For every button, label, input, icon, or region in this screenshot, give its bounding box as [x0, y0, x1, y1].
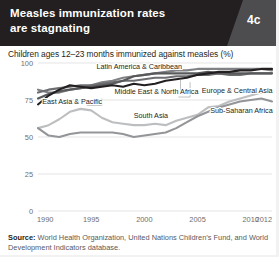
y-tick-label-100: 100	[21, 59, 33, 68]
x-tick-label-1995: 1995	[83, 215, 99, 224]
series-label-east-asia-pacific: East Asia & Pacific	[42, 97, 102, 106]
series-label-middle-east-north-africa: Middle East & North Africa	[115, 87, 199, 96]
x-tick-label-1990: 1990	[37, 215, 53, 224]
figure-title-line2: are stagnating	[10, 21, 230, 36]
x-axis-labels-group: 199019952000200520102012	[37, 215, 272, 224]
y-axis-labels-group: 0255075100	[21, 59, 33, 216]
line-chart-svg: 0255075100 199019952000200520102012 Lati…	[0, 59, 279, 229]
figure-header: Measles immunization rates are stagnatin…	[0, 0, 279, 46]
series-label-south-asia: South Asia	[134, 111, 168, 120]
series-label-latin-america-caribbean: Latin America & Caribbean	[97, 62, 183, 71]
y-tick-label-0: 0	[29, 207, 33, 216]
right-edge-rule	[276, 0, 279, 257]
series-label-sub-saharan-africa: Sub-Saharan Africa	[210, 106, 272, 115]
figure-number-badge: 4c	[227, 0, 279, 46]
x-tick-label-2012: 2012	[256, 215, 272, 224]
figure-title: Measles immunization rates are stagnatin…	[10, 6, 230, 36]
y-tick-label-50: 50	[25, 133, 33, 142]
chart-plot-area: 0255075100 199019952000200520102012 Lati…	[0, 59, 279, 229]
chart-subtitle: Children ages 12–23 months immunized aga…	[8, 49, 233, 59]
x-tick-label-2000: 2000	[136, 215, 152, 224]
figure-4c: Measles immunization rates are stagnatin…	[0, 0, 279, 257]
source-text: World Health Organization, United Nation…	[8, 233, 268, 252]
y-tick-label-75: 75	[25, 96, 33, 105]
series-label-europe-central-asia: Europe & Central Asia	[202, 86, 273, 95]
y-tick-label-25: 25	[25, 170, 33, 179]
x-tick-label-2005: 2005	[189, 215, 205, 224]
figure-title-line1: Measles immunization rates	[10, 7, 165, 19]
figure-number-label: 4c	[247, 13, 260, 27]
source-label: Source:	[8, 233, 36, 242]
source-note: Source: World Health Organization, Unite…	[8, 233, 274, 253]
